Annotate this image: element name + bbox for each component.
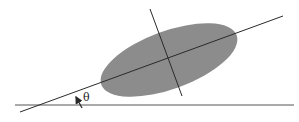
theta-label: θ — [83, 91, 90, 104]
ellipse-diagram: θ — [0, 0, 299, 122]
angle-arrow-icon — [76, 97, 82, 108]
major-axis-line — [20, 16, 283, 112]
